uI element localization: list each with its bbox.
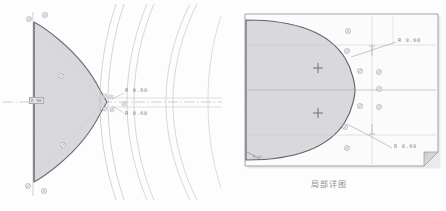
node-marker	[41, 188, 46, 193]
radius-label-upper: R 0.60	[125, 87, 148, 93]
detail-corner-tag: 0.15	[253, 155, 262, 159]
node-marker	[103, 94, 107, 98]
node-marker	[342, 124, 347, 129]
node-marker	[103, 107, 107, 111]
axis-tag-label: E 50	[29, 97, 44, 104]
node-marker	[26, 16, 31, 21]
detail-radius-label-upper: R 0.60	[398, 37, 421, 43]
detail-view-caption: 局部详图	[311, 178, 347, 189]
radius-label-lower: R 0.60	[125, 110, 148, 116]
node-marker	[60, 142, 65, 147]
section-body-profile	[34, 22, 107, 182]
node-marker	[344, 145, 349, 150]
node-marker	[122, 102, 126, 106]
node-marker	[376, 86, 381, 91]
node-marker	[25, 183, 30, 188]
node-marker	[376, 69, 381, 74]
node-marker	[42, 12, 47, 17]
detail-radius-label-lower: R 0.60	[394, 143, 417, 149]
node-marker	[376, 104, 381, 109]
drawing-canvas: E 50 R 0.60 R 0.60 R 0.60 R 0.60 0.15 局部…	[0, 0, 446, 211]
node-marker	[109, 95, 113, 99]
node-marker	[345, 28, 350, 33]
node-marker	[344, 48, 349, 53]
node-marker	[357, 68, 362, 73]
node-marker	[357, 103, 362, 108]
node-marker	[110, 108, 114, 112]
cad-drawing-svg	[0, 0, 446, 211]
node-marker	[58, 73, 63, 78]
